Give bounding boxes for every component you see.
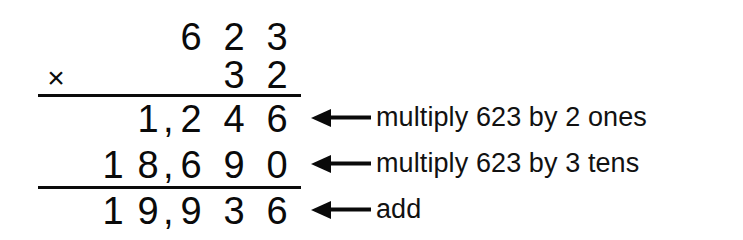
annotation-label-partial-one: multiply 623 by 2 ones	[376, 104, 647, 131]
arrow-left-icon-partial-one	[311, 107, 371, 129]
partial-product-one-hundreds-digit: 2	[174, 100, 208, 138]
partial-product-one-tens-digit: 4	[217, 100, 251, 138]
partial-product-one-ones-digit: 6	[260, 100, 294, 138]
partial-product-one-thousands-digit: 1	[131, 100, 165, 138]
partial-product-two-hundreds-digit: 6	[174, 146, 208, 184]
partial-product-two-thousands-digit: 8	[131, 146, 165, 184]
long-multiplication-worksheet: 6 2 3 × 3 2 1 , 2 4 6 multiply 623 by 2 …	[0, 0, 743, 240]
multiplication-operator-symbol: ×	[41, 63, 71, 93]
multiplication-rule-line	[38, 94, 301, 97]
addition-rule-line	[38, 186, 301, 189]
total-tenthousands-digit: 1	[96, 192, 130, 230]
annotation-label-partial-two: multiply 623 by 3 tens	[376, 150, 639, 177]
partial-product-two-ones-digit: 0	[260, 146, 294, 184]
total-tens-digit: 3	[217, 192, 251, 230]
multiplicand-hundreds-digit: 6	[174, 18, 208, 56]
arrow-left-icon-total	[311, 199, 371, 221]
partial-product-two-tens-digit: 9	[217, 146, 251, 184]
total-hundreds-digit: 9	[174, 192, 208, 230]
arrow-left-icon-partial-two	[311, 153, 371, 175]
multiplier-ones-digit: 2	[260, 56, 294, 94]
annotation-label-total: add	[376, 196, 421, 223]
partial-product-two-tenthousands-digit: 1	[96, 146, 130, 184]
multiplicand-tens-digit: 2	[217, 18, 251, 56]
multiplicand-ones-digit: 3	[260, 18, 294, 56]
multiplier-tens-digit: 3	[217, 56, 251, 94]
total-thousands-digit: 9	[131, 192, 165, 230]
total-ones-digit: 6	[260, 192, 294, 230]
